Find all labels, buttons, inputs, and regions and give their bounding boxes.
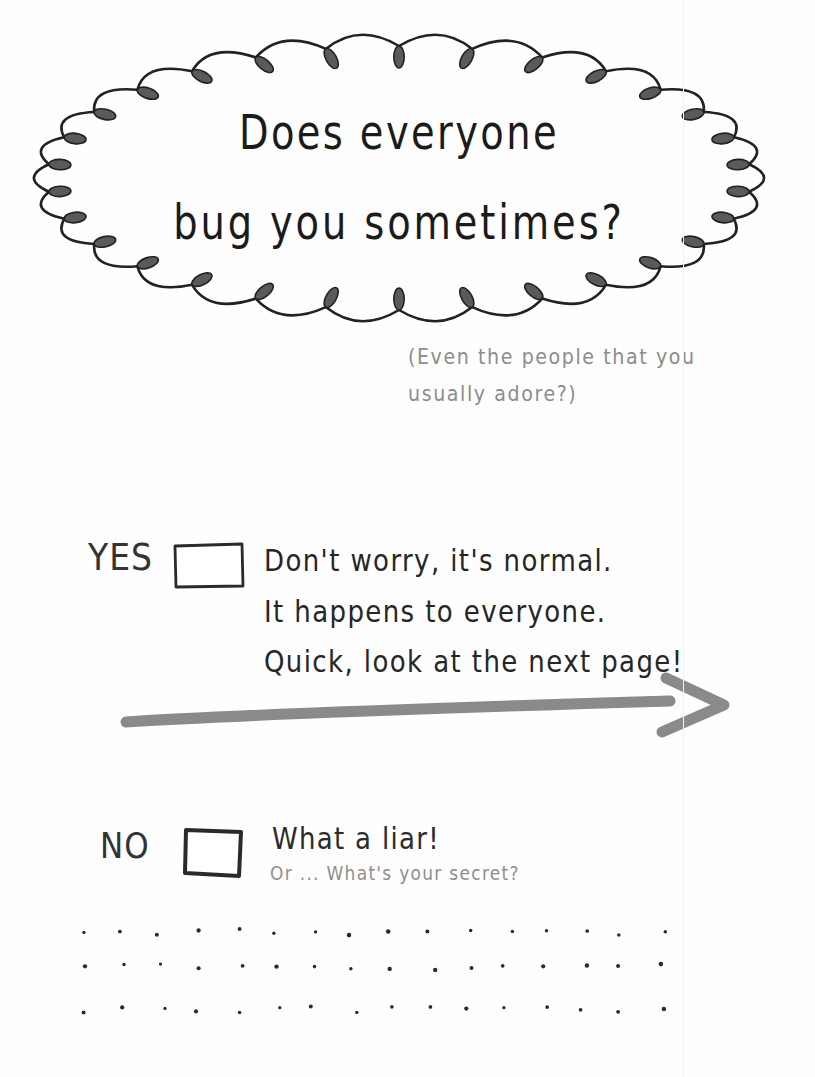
decorative-dot [585, 963, 590, 968]
decorative-dot [616, 964, 620, 968]
decorative-dot [349, 967, 352, 970]
decorative-dot [314, 930, 317, 933]
decorative-dot [309, 1005, 313, 1009]
decorative-dot [511, 930, 515, 934]
yes-checkbox[interactable] [172, 541, 246, 589]
decorative-dot [194, 1009, 198, 1013]
decorative-dot [155, 933, 159, 937]
decorative-dot [272, 931, 275, 934]
no-line-1: What a liar! [272, 822, 440, 856]
decorative-dot [238, 1011, 242, 1015]
decorative-dot [82, 1011, 86, 1015]
decorative-dot [118, 930, 122, 934]
decorative-dot [278, 1006, 281, 1009]
scan-seam [683, 0, 684, 1077]
no-label: NO [100, 826, 150, 866]
bubble-line-2: bug you sometimes? [43, 178, 755, 268]
decorative-dot [313, 965, 317, 969]
decorative-dot [470, 966, 474, 970]
decorative-dot [197, 966, 201, 970]
yes-line-1: Don't worry, it's normal. [264, 536, 734, 586]
decorative-dot [545, 1005, 549, 1009]
decorative-dot [390, 1005, 394, 1009]
decorative-dot [159, 962, 162, 965]
decorative-dot [545, 929, 548, 932]
decorative-dot [82, 931, 85, 934]
decorative-dot [429, 1005, 433, 1009]
bubble-loop-bean [457, 46, 477, 70]
no-checkbox-outline [185, 830, 241, 876]
decorative-dot [388, 967, 392, 971]
decorative-dot [579, 1008, 583, 1012]
yes-line-2: It happens to everyone. [264, 586, 734, 636]
decorative-dot [616, 1010, 620, 1014]
dot-pattern [70, 912, 710, 1027]
yes-text-block: Don't worry, it's normal. It happens to … [264, 536, 734, 686]
decorative-dot [664, 930, 668, 934]
bubble-line-1: Does everyone [43, 88, 755, 178]
decorative-dot [274, 964, 278, 968]
yes-checkbox-outline [175, 544, 243, 587]
decorative-dot [585, 929, 589, 933]
bubble-loop-bean [190, 67, 214, 86]
subnote-line-1: (Even the people that you [408, 338, 748, 375]
bubble-loop-bean [584, 270, 608, 289]
decorative-dot [502, 1006, 505, 1009]
bubble-loop-bean [522, 280, 546, 302]
decorative-dot [241, 964, 245, 968]
yes-label: YES [88, 534, 153, 579]
decorative-dot [662, 1007, 667, 1012]
decorative-dot [163, 1007, 166, 1010]
bubble-loop-bean [394, 288, 404, 310]
bubble-loop-bean [457, 285, 477, 309]
bubble-loop-bean [190, 270, 214, 289]
decorative-dot [83, 964, 87, 968]
bubble-loop-bean [321, 46, 341, 70]
decorative-dot [617, 933, 621, 937]
worksheet-page: Does everyone bug you sometimes? (Even t… [0, 0, 815, 1077]
decorative-dot [347, 933, 352, 938]
bubble-loop-bean [584, 67, 608, 86]
decorative-dot [120, 1005, 124, 1009]
arrow-shaft [126, 701, 670, 722]
bubble-loop-bean [252, 53, 276, 75]
arrow-right-icon [110, 668, 750, 758]
subnote: (Even the people that you usually adore?… [408, 338, 748, 412]
decorative-dot [196, 928, 200, 932]
decorative-dot [541, 964, 545, 968]
bubble-loop-bean [522, 53, 546, 75]
no-checkbox[interactable] [182, 826, 244, 879]
bubble-text: Does everyone bug you sometimes? [43, 88, 755, 267]
decorative-dot [433, 968, 437, 972]
decorative-dot [122, 963, 126, 967]
no-line-2: Or ... What's your secret? [270, 862, 520, 884]
bubble-loop-bean [321, 285, 341, 309]
decorative-dot [238, 927, 242, 931]
decorative-dot [386, 929, 391, 934]
decorative-dot [464, 1006, 468, 1010]
bubble-loop-bean [394, 46, 404, 68]
bubble-loop-bean [252, 280, 276, 302]
decorative-dot [659, 962, 664, 967]
subnote-line-2: usually adore?) [408, 375, 748, 412]
decorative-dot [469, 929, 472, 932]
decorative-dot [425, 929, 429, 933]
decorative-dot [355, 1011, 358, 1014]
decorative-dot [501, 964, 505, 968]
